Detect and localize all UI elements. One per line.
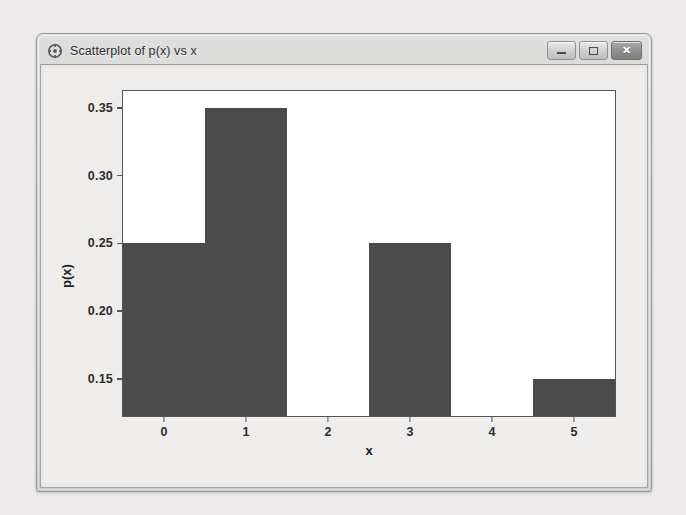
- close-button[interactable]: ✕: [611, 41, 642, 60]
- plot-frame: 0.150.200.250.300.35 012345 x: [122, 90, 616, 417]
- x-axis-tick-label: 0: [160, 425, 167, 439]
- bar: [533, 379, 615, 416]
- y-axis-tick: 0.25: [88, 236, 123, 250]
- x-axis-tick-label: 4: [488, 425, 495, 439]
- window-title: Scatterplot of p(x) vs x: [70, 44, 547, 58]
- y-axis-tick: 0.35: [88, 101, 123, 115]
- y-axis-tick: 0.30: [88, 169, 123, 183]
- bar-slot: [205, 91, 287, 416]
- bar-slot: [369, 91, 451, 416]
- x-axis-title: x: [365, 443, 372, 458]
- y-axis-tick-mark: [117, 107, 123, 109]
- bar-slot: [123, 91, 205, 416]
- minimize-icon: [557, 52, 566, 54]
- bar: [205, 108, 287, 416]
- y-axis-tick-label: 0.15: [88, 372, 113, 386]
- bar: [123, 243, 205, 416]
- y-axis-tick-label: 0.35: [88, 101, 113, 115]
- y-axis-tick-mark: [117, 310, 123, 312]
- window-title-bar[interactable]: Scatterplot of p(x) vs x ✕: [40, 37, 648, 64]
- chart-surface: p(x) 0.150.200.250.300.35 012345 x: [44, 68, 644, 484]
- plot-window[interactable]: Scatterplot of p(x) vs x ✕ p(x) 0.150.20…: [36, 33, 652, 492]
- x-axis-tick-label: 2: [324, 425, 331, 439]
- x-axis-tick-mark: [163, 416, 165, 422]
- x-axis-tick: 3: [406, 416, 413, 439]
- x-axis-tick: 2: [324, 416, 331, 439]
- x-axis-tick: 1: [242, 416, 249, 439]
- scatterplot-target-icon: [47, 43, 63, 59]
- x-axis-tick-mark: [573, 416, 575, 422]
- x-axis-tick-mark: [491, 416, 493, 422]
- maximize-icon: [589, 47, 598, 55]
- y-axis-tick-label: 0.25: [88, 236, 113, 250]
- x-axis-tick-label: 5: [570, 425, 577, 439]
- y-axis-title: p(x): [59, 264, 74, 288]
- x-axis-tick-label: 3: [406, 425, 413, 439]
- y-axis-tick: 0.20: [88, 304, 123, 318]
- y-axis-tick-label: 0.20: [88, 304, 113, 318]
- bars-layer: [123, 91, 615, 416]
- x-axis-tick: 5: [570, 416, 577, 439]
- bar-slot: [287, 91, 369, 416]
- y-axis-tick-mark: [117, 175, 123, 177]
- y-axis-tick: 0.15: [88, 372, 123, 386]
- y-axis-tick-label: 0.30: [88, 169, 113, 183]
- x-axis-tick-mark: [245, 416, 247, 422]
- y-axis-tick-mark: [117, 243, 123, 245]
- bar-slot: [533, 91, 615, 416]
- minimize-button[interactable]: [547, 41, 576, 60]
- window-client-area: p(x) 0.150.200.250.300.35 012345 x: [40, 64, 648, 488]
- bar: [369, 243, 451, 416]
- y-axis-tick-mark: [117, 378, 123, 380]
- close-icon: ✕: [622, 45, 631, 56]
- x-axis-tick-label: 1: [242, 425, 249, 439]
- x-axis-tick-mark: [409, 416, 411, 422]
- window-controls: ✕: [547, 41, 642, 60]
- x-axis-tick: 0: [160, 416, 167, 439]
- bar-slot: [451, 91, 533, 416]
- maximize-button[interactable]: [579, 41, 608, 60]
- x-axis-tick: 4: [488, 416, 495, 439]
- x-axis-tick-mark: [327, 416, 329, 422]
